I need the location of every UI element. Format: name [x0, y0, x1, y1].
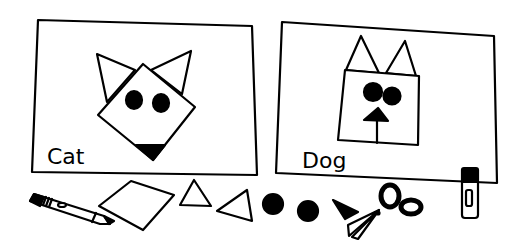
craft-illustration: Cat Dog — [0, 0, 524, 250]
cat-eye-right — [153, 94, 169, 112]
dog-eye-left — [364, 83, 382, 101]
cat-label: Cat — [47, 144, 85, 169]
cat-eye-left — [126, 91, 142, 109]
circle-1-icon — [263, 194, 283, 214]
dog-eye-right — [384, 88, 401, 105]
triangle-2-icon — [217, 190, 252, 221]
circle-2-icon — [298, 201, 318, 221]
triangle-1-icon — [180, 180, 211, 206]
crayon-icon — [30, 194, 114, 224]
small-triangle-icon — [333, 200, 358, 219]
dog-label: Dog — [302, 148, 346, 173]
glue-stick-icon — [462, 168, 478, 218]
